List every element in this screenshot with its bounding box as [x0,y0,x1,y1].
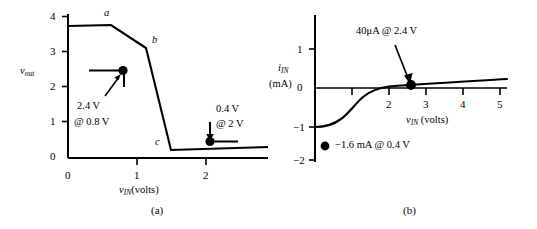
chart-b-xtick-4: 4 [460,99,466,110]
chart-b-ytick-1: 1 [297,44,303,55]
chart-a-annotation-2-line2: @ 2 V [216,119,244,130]
chart-a-ytick-3: 3 [50,46,56,57]
chart-a-annotation-1-line1: 2.4 V [77,101,100,112]
figure-container: 4 3 2 1 0 0 1 2 vout vIN(volts) a b c 2.… [0,0,537,229]
chart-b-x-axis-title: vIN (volts) [406,115,448,127]
chart-a-y-axis-sub: out [25,69,35,78]
chart-b-annotation-1: 40μA @ 2.4 V [356,26,417,37]
chart-a-y-axis-title: vout [20,66,34,78]
chart-b-x-axis-unit: (volts) [421,114,448,125]
chart-b-caption: (b) [403,205,416,216]
chart-a-x-axis-title: vIN(volts) [119,185,159,197]
chart-a-xtick-2: 2 [203,170,209,181]
chart-panel-a: 4 3 2 1 0 0 1 2 vout vIN(volts) a b c 2.… [0,0,270,229]
chart-b-ytick-0: 0 [297,82,303,93]
chart-b-xtick-5: 5 [497,99,503,110]
chart-b-marker-1 [395,45,416,90]
chart-a-x-ticks [137,158,206,165]
chart-a-xtick-1: 1 [134,170,140,181]
chart-b-y-axis-sub: IN [281,66,289,75]
chart-a-ytick-0: 0 [50,151,56,162]
chart-b-legend-dot [321,142,330,151]
chart-b-y-axis-title-line2: (mA) [269,79,292,90]
chart-a-annotation-1-line2: @ 0.8 V [74,117,109,128]
chart-a-marker-1 [89,66,128,96]
chart-a-ytick-1: 1 [50,116,56,127]
chart-b-annotation-2: −1.6 mA @ 0.4 V [335,140,410,151]
chart-b-x-axis-sub: IN [411,118,419,127]
chart-a-point-label-c: c [155,137,160,148]
chart-a-point-label-b: b [152,35,157,46]
chart-b-x-ticks [352,88,500,95]
chart-panel-b: 1 0 −1 −2 2 3 4 5 iIN (mA) vIN (volts) 4… [267,0,537,229]
chart-a-caption: (a) [151,205,163,216]
chart-b-xtick-3: 3 [423,99,429,110]
chart-a-annotation-2-line1: 0.4 V [216,104,239,115]
chart-a-ytick-4: 4 [50,11,56,22]
chart-a-xtick-0: 0 [65,170,71,181]
chart-b-ytick-m2: −2 [293,155,305,166]
chart-a-x-axis-unit: (volts) [131,184,158,195]
chart-b-ytick-m1: −1 [293,122,305,133]
chart-a-ytick-2: 2 [50,81,56,92]
chart-a-point-label-a: a [104,8,109,19]
chart-b-y-axis-title-line1: iIN [278,63,288,75]
chart-a-curve [68,25,268,150]
chart-b-xtick-2: 2 [386,99,392,110]
